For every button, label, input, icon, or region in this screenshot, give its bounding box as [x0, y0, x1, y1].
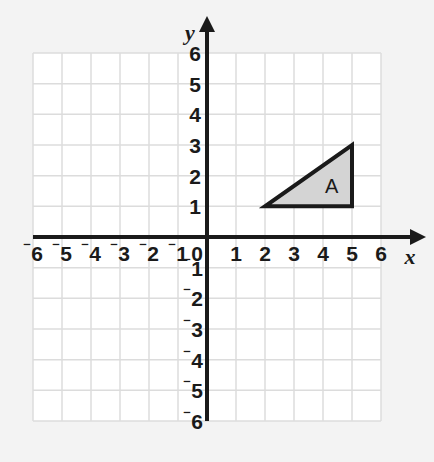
y-tick-label-2: 2 — [189, 165, 201, 188]
x-tick-label-2: 2 — [259, 242, 271, 265]
x-tick-label-4: 4 — [317, 242, 329, 265]
shape-label-a: A — [325, 175, 339, 197]
x-tick-label-3: 3 — [288, 242, 300, 265]
coordinate-plane-figure: ⁻6⁻5⁻4⁻3⁻2⁻11234560123456⁻1⁻2⁻3⁻4⁻5⁻6 x … — [0, 0, 434, 462]
y-tick-label-5: 5 — [189, 73, 201, 96]
coordinate-plane-svg: ⁻6⁻5⁻4⁻3⁻2⁻11234560123456⁻1⁻2⁻3⁻4⁻5⁻6 x … — [0, 0, 434, 462]
x-axis-name-label: x — [404, 244, 416, 269]
y-tick-label-4: 4 — [189, 103, 201, 126]
shape-labels: A — [325, 175, 339, 197]
x-tick-label-6: 6 — [375, 242, 387, 265]
x-tick-label-1: 1 — [230, 242, 242, 265]
y-tick-label-6: 6 — [189, 42, 201, 65]
x-tick-label-5: 5 — [346, 242, 358, 265]
y-tick-label-1: 1 — [189, 195, 201, 218]
y-tick-label-3: 3 — [189, 134, 201, 157]
